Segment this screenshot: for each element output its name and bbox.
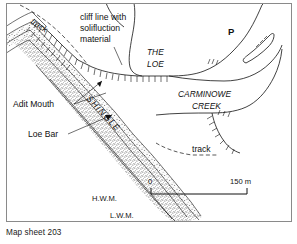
loe-margin-hachure-tuft (208, 59, 218, 65)
low-water-mark-label: L.W.M. (110, 211, 134, 220)
cliff-line-label-line1: cliff line with (80, 12, 126, 22)
adit-mouth-arrowhead (97, 81, 102, 87)
cliff-line-label-line2: solifluction (80, 23, 120, 33)
parking-label: P (228, 26, 235, 37)
map-figure: cliff line with solifluction material tr… (0, 0, 297, 244)
scale-end-label: 150 m (230, 177, 251, 186)
eastern-spur-outline (243, 34, 274, 64)
the-loe-label-line2: LOE (147, 59, 164, 69)
loe-bar-label: Loe Bar (28, 129, 58, 139)
carminowe-creek-tributary (212, 113, 240, 153)
cliff-line-label-line3: material (80, 34, 111, 44)
carminowe-creek-label-line2: CREEK (192, 101, 221, 111)
adit-mouth-label: Adit Mouth (13, 99, 54, 109)
map-canvas: cliff line with solifluction material tr… (6, 3, 292, 222)
map-frame: cliff line with solifluction material tr… (6, 3, 292, 222)
carminowe-creek-north-bank (169, 45, 282, 81)
shingle-bar-body (6, 22, 202, 222)
figure-caption: Map sheet 203 (6, 228, 61, 237)
the-loe-label-line1: THE (147, 47, 164, 57)
track-lower-label: track (192, 144, 211, 154)
loe-shoreline-east (169, 3, 264, 76)
carminowe-creek-label-line1: CARMINOWE (178, 89, 231, 99)
cliff-label-leader (114, 47, 122, 65)
scale-start-label: 0 (148, 177, 152, 186)
the-loe-shoreline (129, 3, 142, 76)
eastern-spur-hachures (256, 36, 267, 47)
high-water-mark-label: H.W.M. (92, 194, 117, 203)
